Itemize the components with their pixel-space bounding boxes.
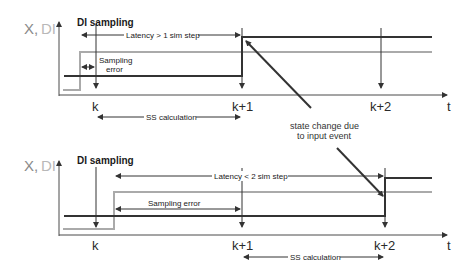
- bottom-di-sampling-label: DI sampling: [77, 155, 134, 166]
- top-panel: X, DI DI sampling Latency > 1 sim step S…: [24, 17, 451, 122]
- bottom-tick-k: k: [92, 238, 99, 253]
- top-tick-k1: k+1: [232, 99, 253, 114]
- bottom-x-signal: [64, 178, 432, 216]
- top-y-axis-label-di: DI: [41, 20, 56, 37]
- annotation-line-2: to input event: [297, 131, 352, 141]
- top-y-axis-label-x: X,: [24, 20, 38, 37]
- bottom-y-axis-label-x: X,: [24, 157, 38, 174]
- timing-diagram: X, DI DI sampling Latency > 1 sim step S…: [0, 0, 473, 270]
- top-sampling-error-label-2: error: [106, 65, 123, 74]
- bottom-panel: X, DI DI sampling Latency < 2 sim step S…: [24, 148, 451, 262]
- bottom-di-signal: [63, 192, 432, 229]
- bottom-ss-calc-label: SS calculation: [290, 253, 341, 262]
- top-ss-calc-label: SS calculation: [146, 113, 197, 122]
- annotation-line-1: state change due: [290, 121, 359, 131]
- bottom-tick-k1: k+1: [232, 238, 253, 253]
- bottom-sampling-error-label: Sampling error: [148, 199, 201, 208]
- bottom-t-label: t: [447, 238, 451, 253]
- bottom-y-axis-label-di: DI: [41, 157, 56, 174]
- top-di-sampling-label: DI sampling: [77, 17, 134, 28]
- bottom-tick-k2: k+2: [374, 238, 395, 253]
- top-latency-label: Latency > 1 sim step: [126, 31, 200, 40]
- top-t-label: t: [447, 99, 451, 114]
- bottom-latency-label: Latency < 2 sim step: [214, 172, 288, 181]
- top-tick-k2: k+2: [370, 99, 391, 114]
- top-sampling-error-label-1: Sampling: [99, 56, 132, 65]
- bottom-state-change-arrow: [337, 148, 383, 196]
- top-tick-k: k: [92, 99, 99, 114]
